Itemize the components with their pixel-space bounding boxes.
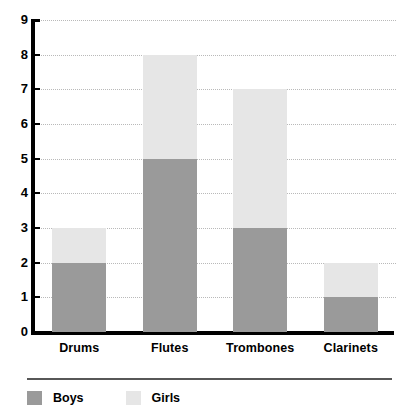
x-axis-label-clarinets: Clarinets bbox=[291, 342, 408, 355]
cropped-title-remnant bbox=[36, 0, 196, 4]
legend-entry-girls: Girls bbox=[126, 391, 181, 405]
legend-label-boys: Boys bbox=[53, 392, 84, 405]
y-axis-label-0: 0 bbox=[4, 325, 28, 338]
y-axis-label-1: 1 bbox=[4, 290, 28, 303]
bar-segment-girls-flutes bbox=[143, 55, 197, 159]
legend-label-girls: Girls bbox=[152, 392, 181, 405]
legend-items: BoysGirls bbox=[27, 391, 180, 405]
bar-segment-boys-trombones bbox=[233, 228, 287, 332]
y-axis-label-8: 8 bbox=[4, 48, 28, 61]
bar-segment-girls-trombones bbox=[233, 89, 287, 228]
bar-segment-boys-clarinets bbox=[324, 297, 378, 332]
bar-series-area bbox=[34, 20, 396, 332]
bar-clarinets bbox=[324, 263, 378, 332]
bar-segment-girls-clarinets bbox=[324, 263, 378, 298]
bar-flutes bbox=[143, 55, 197, 332]
y-axis-label-9: 9 bbox=[4, 13, 28, 26]
bar-trombones bbox=[233, 89, 287, 332]
legend-entry-boys: Boys bbox=[27, 391, 84, 405]
y-axis-label-4: 4 bbox=[4, 186, 28, 199]
legend-swatch-boys bbox=[27, 391, 42, 405]
bar-segment-boys-flutes bbox=[143, 159, 197, 332]
bar-segment-girls-drums bbox=[52, 228, 106, 263]
bar-segment-boys-drums bbox=[52, 263, 106, 332]
y-axis-label-3: 3 bbox=[4, 221, 28, 234]
legend-divider bbox=[27, 378, 392, 380]
y-axis-label-2: 2 bbox=[4, 256, 28, 269]
bar-drums bbox=[52, 228, 106, 332]
y-axis-label-6: 6 bbox=[4, 117, 28, 130]
stacked-bar-chart: 0123456789 DrumsFlutesTrombonesClarinets… bbox=[0, 0, 408, 412]
y-axis-label-7: 7 bbox=[4, 82, 28, 95]
legend-swatch-girls bbox=[126, 391, 141, 405]
y-axis-label-5: 5 bbox=[4, 152, 28, 165]
